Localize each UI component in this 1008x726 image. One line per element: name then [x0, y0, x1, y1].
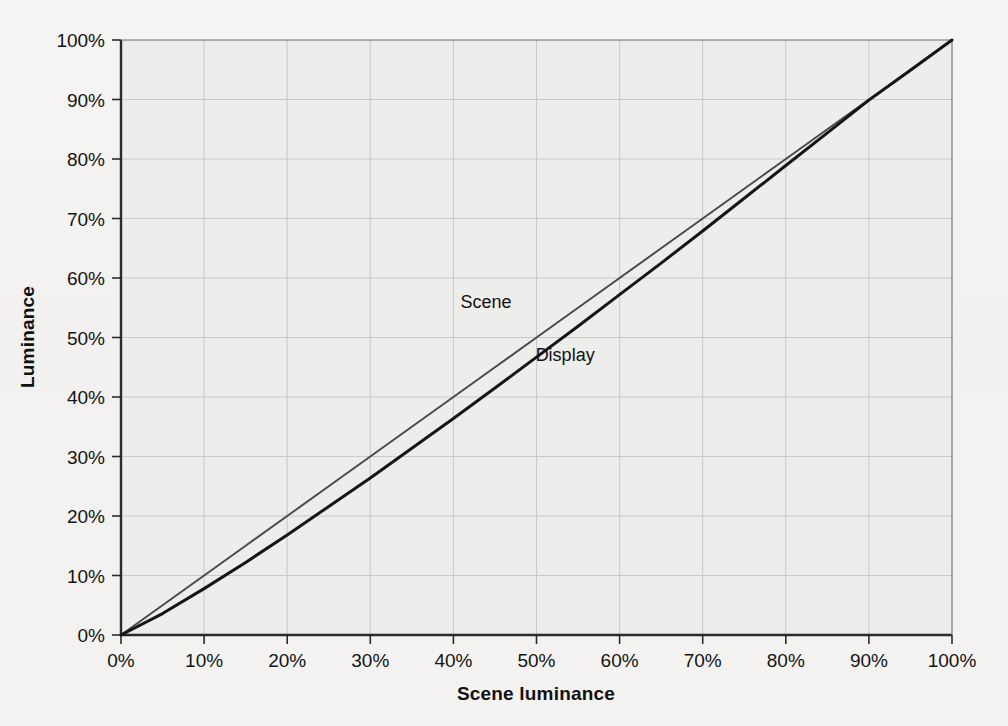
luminance-transfer-chart: 0%10%20%30%40%50%60%70%80%90%100% 0%10%2…	[0, 0, 1008, 726]
x-axis-title: Scene luminance	[457, 683, 615, 704]
x-tick-label: 50%	[517, 650, 555, 671]
y-tick-label: 80%	[67, 149, 105, 170]
x-tick-label: 40%	[434, 650, 472, 671]
y-tick-label: 30%	[67, 447, 105, 468]
x-tick-label: 90%	[850, 650, 888, 671]
x-tick-label: 100%	[928, 650, 977, 671]
y-tick-label: 90%	[67, 90, 105, 111]
series-label-display: Display	[536, 345, 595, 365]
y-tick-label: 40%	[67, 387, 105, 408]
y-tick-label: 20%	[67, 506, 105, 527]
chart-figure: 0%10%20%30%40%50%60%70%80%90%100% 0%10%2…	[0, 0, 1008, 726]
y-tick-label: 60%	[67, 268, 105, 289]
y-tick-label: 10%	[67, 566, 105, 587]
y-tick-label: 100%	[56, 30, 105, 51]
x-tick-label: 80%	[767, 650, 805, 671]
series-label-scene: Scene	[461, 292, 512, 312]
y-tick-label: 70%	[67, 209, 105, 230]
x-tick-label: 0%	[107, 650, 135, 671]
x-tick-label: 70%	[684, 650, 722, 671]
x-tick-labels: 0%10%20%30%40%50%60%70%80%90%100%	[107, 650, 976, 671]
x-tick-label: 60%	[601, 650, 639, 671]
y-tick-label: 0%	[78, 625, 106, 646]
y-tick-labels: 0%10%20%30%40%50%60%70%80%90%100%	[56, 30, 105, 646]
y-axis-title: Luminance	[17, 286, 38, 388]
x-tick-label: 10%	[185, 650, 223, 671]
x-tick-label: 30%	[351, 650, 389, 671]
x-tick-label: 20%	[268, 650, 306, 671]
y-tick-label: 50%	[67, 328, 105, 349]
